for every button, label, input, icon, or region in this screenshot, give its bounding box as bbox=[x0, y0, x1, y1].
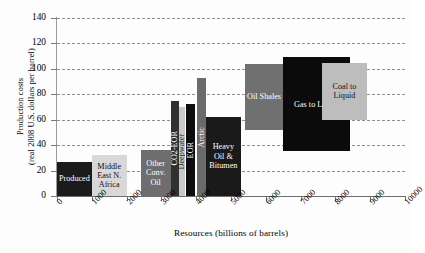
y-axis-title-line2: (real 2008 U.S. dollars per barrel) bbox=[26, 27, 37, 187]
bar-label: Middle East N. Africa bbox=[92, 162, 127, 190]
bar-produced: Produced bbox=[57, 162, 92, 196]
y-tick-80 bbox=[51, 94, 57, 95]
x-tick-label-10000: 10000 bbox=[403, 185, 425, 207]
bar-label: Oil Shales bbox=[246, 92, 282, 101]
y-tick-100 bbox=[51, 69, 57, 70]
bar-label: EOR bbox=[186, 142, 196, 158]
bar-oil-shales: Oil Shales bbox=[245, 64, 283, 130]
bar-label: Heavy Oil & Bitumen bbox=[206, 142, 241, 170]
y-tick-label-60: 60 bbox=[0, 115, 46, 124]
bar-label: Deepwater bbox=[179, 134, 185, 169]
y-tick-20 bbox=[51, 171, 57, 172]
y-tick-40 bbox=[51, 145, 57, 146]
bar-heavy-oil-bitumen: Heavy Oil & Bitumen bbox=[206, 117, 241, 196]
bar-label: Other Conv. Oil bbox=[141, 159, 171, 187]
y-tick-140 bbox=[51, 18, 57, 19]
x-tick-label-0: 0 bbox=[55, 197, 64, 206]
y-tick-120 bbox=[51, 43, 57, 44]
y-tick-label-80: 80 bbox=[0, 89, 46, 98]
plot-area: ProducedMiddle East N. AfricaOther Conv.… bbox=[57, 18, 405, 196]
x-axis-title: Resources (billions of barrels) bbox=[57, 228, 405, 238]
bar-label: Produced bbox=[58, 174, 91, 183]
bar-co2-eor: CO2-EOR bbox=[171, 101, 179, 196]
y-tick-label-20: 20 bbox=[0, 166, 46, 175]
bar-label: Coal to Liquid bbox=[322, 82, 367, 101]
y-axis-title: Production costs (real 2008 U.S. dollars… bbox=[16, 27, 37, 187]
gridline-y-140 bbox=[57, 18, 405, 19]
bar-other-conv-oil: Other Conv. Oil bbox=[141, 150, 171, 196]
y-tick-label-140: 140 bbox=[0, 13, 46, 22]
y-tick-label-0: 0 bbox=[0, 191, 46, 200]
bar-coal-to-liquid: Coal to Liquid bbox=[322, 63, 367, 120]
y-axis-title-line1: Production costs bbox=[16, 27, 27, 187]
y-tick-label-120: 120 bbox=[0, 38, 46, 47]
bar-eor: EOR bbox=[186, 104, 196, 196]
bar-arctic: Arctic bbox=[197, 78, 206, 196]
y-tick-label-40: 40 bbox=[0, 140, 46, 149]
bar-label: CO2-EOR bbox=[171, 131, 179, 166]
bar-deepwater: Deepwater bbox=[179, 107, 185, 196]
y-tick-label-100: 100 bbox=[0, 64, 46, 73]
gridline-y-120 bbox=[57, 43, 405, 44]
bar-label: Arctic bbox=[197, 127, 206, 147]
y-tick-60 bbox=[51, 120, 57, 121]
